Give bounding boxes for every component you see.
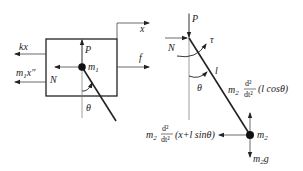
f-label: f: [139, 52, 143, 63]
svg-text:m2: m2: [146, 129, 157, 142]
horizontal-inertia-label: m2 d² dt² (x+l sinθ): [146, 124, 215, 144]
theta-arc-pendulum: [189, 72, 207, 77]
tau-label: τ: [210, 34, 214, 45]
svg-text:(x+l sinθ): (x+l sinθ): [175, 129, 215, 141]
weight-label: m2g: [253, 153, 269, 166]
x-label: x: [139, 23, 145, 34]
inertia-label: m1x″: [16, 67, 36, 80]
mass-m1: [78, 63, 86, 71]
theta-label-pendulum: θ: [197, 82, 202, 93]
svg-text:d²: d²: [162, 124, 169, 133]
svg-text:dt²: dt²: [161, 135, 170, 144]
theta-arc-cart: [82, 83, 92, 91]
theta-label-cart: θ: [86, 102, 91, 113]
N-label-cart: N: [49, 74, 58, 85]
cart-fbd: x f kx m1x″ P N m1 θ: [15, 23, 149, 121]
P-label-pendulum: P: [191, 13, 198, 24]
svg-text:m2: m2: [228, 84, 239, 97]
diagram-canvas: x f kx m1x″ P N m1 θ: [0, 0, 303, 171]
svg-text:d²: d²: [245, 79, 252, 88]
mass-m2: [246, 131, 254, 139]
svg-text:(l cosθ): (l cosθ): [258, 83, 289, 95]
svg-text:dt²: dt²: [244, 90, 253, 99]
pendulum-fbd: P N τ l θ m2 d² dt² (l cosθ) m2g m2 d²: [146, 13, 289, 166]
l-label: l: [215, 65, 218, 76]
N-label-pendulum: N: [167, 42, 176, 53]
vertical-inertia-label: m2 d² dt² (l cosθ): [228, 79, 289, 99]
kx-label: kx: [19, 41, 28, 52]
m1-label: m1: [88, 61, 99, 74]
m2-label: m2: [257, 129, 268, 142]
tau-arc: [177, 44, 206, 57]
P-label-cart: P: [84, 44, 91, 55]
